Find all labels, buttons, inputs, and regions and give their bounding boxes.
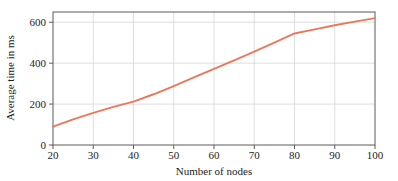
y-tick-label-200: 200 <box>30 98 47 110</box>
y-axis-title: Average time in ms <box>4 35 16 121</box>
x-tick-label-20: 20 <box>48 149 60 161</box>
x-tick-labels: 20 30 40 50 60 70 80 90 100 <box>48 149 384 161</box>
x-tick-label-100: 100 <box>367 149 384 161</box>
x-tick-label-80: 80 <box>289 149 301 161</box>
x-tick-label-70: 70 <box>249 149 261 161</box>
y-tick-label-0: 0 <box>41 139 47 151</box>
x-tick-label-30: 30 <box>88 149 100 161</box>
line-chart: 0 200 400 600 20 30 40 50 60 70 80 90 10… <box>0 0 398 181</box>
chart-figure: 0 200 400 600 20 30 40 50 60 70 80 90 10… <box>0 0 398 181</box>
y-tick-label-600: 600 <box>30 16 47 28</box>
y-tick-label-400: 400 <box>30 57 47 69</box>
x-tick-label-40: 40 <box>128 149 140 161</box>
x-tick-label-90: 90 <box>329 149 341 161</box>
x-tick-label-50: 50 <box>168 149 180 161</box>
x-axis-title: Number of nodes <box>176 165 252 177</box>
x-tick-label-60: 60 <box>209 149 221 161</box>
